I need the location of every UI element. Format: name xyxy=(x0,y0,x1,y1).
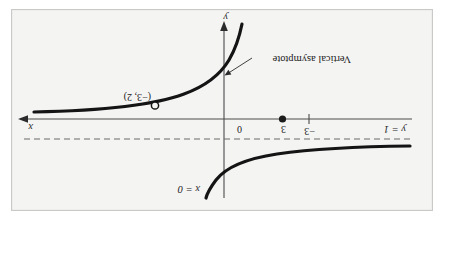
curve-branch-upper xyxy=(206,146,410,198)
annotation-leader-arrowhead xyxy=(225,70,232,76)
x-axis-arrowhead xyxy=(18,115,28,123)
figure-frame: x = 0 y = 1 0 3 −3 (−3, 2) Vertical asym… xyxy=(11,9,433,211)
axis-label-x-equals-zero: x = 0 xyxy=(178,184,200,195)
axis-label-y-equals-one: y = 1 xyxy=(384,124,406,135)
axis-name-x: x xyxy=(28,122,33,133)
tick-label-negative-three: −3 xyxy=(304,126,315,136)
axis-name-y: y xyxy=(223,12,228,23)
vertical-asymptote-annotation: Vertical asymptote xyxy=(273,54,351,65)
graph-svg xyxy=(12,10,432,210)
origin-label: 0 xyxy=(237,124,242,134)
figure-root: x = 0 y = 1 0 3 −3 (−3, 2) Vertical asym… xyxy=(0,0,456,254)
rotated-plot-container: x = 0 y = 1 0 3 −3 (−3, 2) Vertical asym… xyxy=(12,10,432,210)
point-hole-open-circle xyxy=(151,102,158,109)
annotation-leader-line xyxy=(227,58,252,74)
graph-plot-area: x = 0 y = 1 0 3 −3 (−3, 2) Vertical asym… xyxy=(12,10,432,210)
hole-point-label: (−3, 2) xyxy=(124,92,151,102)
tick-label-three: 3 xyxy=(281,124,286,134)
point-x-intercept-filled xyxy=(279,115,286,122)
x-axis-group xyxy=(18,115,412,123)
